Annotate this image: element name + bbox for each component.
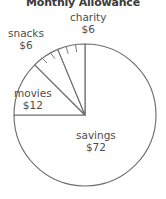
pie-label-savings: savings $72 — [76, 130, 116, 154]
pie-label-movies-value: $12 — [14, 100, 52, 112]
pie-label-charity-name: charity — [70, 11, 106, 23]
pie-label-movies: movies $12 — [14, 88, 52, 112]
pie-label-charity: charity $6 — [70, 12, 106, 36]
pie-label-movies-name: movies — [14, 87, 52, 99]
pie-label-snacks-value: $6 — [8, 40, 44, 52]
pie-label-snacks: snacks $6 — [8, 28, 44, 52]
pie-label-savings-value: $72 — [76, 142, 116, 154]
pie-label-savings-name: savings — [76, 129, 116, 141]
pie-label-snacks-name: snacks — [8, 27, 44, 39]
pie-chart-figure: Monthly Allowance charity $6 snacks $6 m… — [0, 0, 166, 199]
pie-label-charity-value: $6 — [70, 24, 106, 36]
